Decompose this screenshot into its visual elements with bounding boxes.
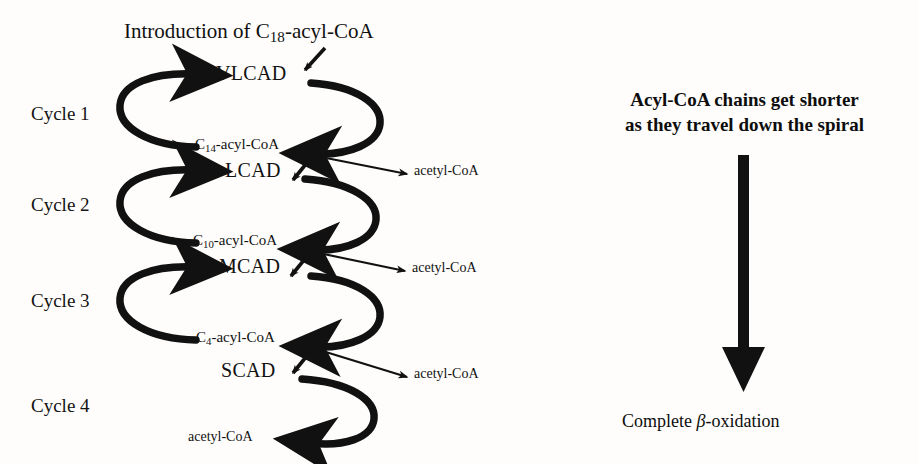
title-subscript: 18 bbox=[270, 29, 285, 45]
acetyl-branch-arrow-1 bbox=[316, 156, 407, 174]
cycle-3-left-curve bbox=[120, 267, 196, 340]
input-arrow-to-vlcad bbox=[305, 48, 325, 70]
title-prefix: Introduction of C bbox=[124, 19, 270, 43]
enzyme-label-scad: SCAD bbox=[221, 360, 276, 381]
c10-suffix: -acyl-CoA bbox=[214, 232, 277, 248]
product-label-acetyl-coa-1: acetyl-CoA bbox=[414, 164, 479, 179]
spiral-annotation-caption: Acyl-CoA chains get shorter as they trav… bbox=[592, 88, 897, 137]
spiral-graphics bbox=[0, 0, 918, 464]
title-suffix: -acyl-CoA bbox=[285, 19, 374, 43]
acetyl-branch-arrow-3 bbox=[316, 349, 407, 377]
cycle-1-right-curve bbox=[311, 83, 380, 154]
acetyl-branch-arrow-2 bbox=[314, 252, 405, 271]
cycle-2-left-curve bbox=[120, 170, 196, 243]
outcome-prefix: Complete bbox=[622, 411, 697, 431]
c14-suffix: -acyl-CoA bbox=[216, 136, 279, 152]
caption-line-1: Acyl-CoA chains get shorter bbox=[592, 88, 897, 113]
c10-prefix: C bbox=[193, 232, 203, 248]
cycle-label-3: Cycle 3 bbox=[31, 291, 90, 311]
product-label-acetyl-coa-final: acetyl-CoA bbox=[188, 430, 253, 445]
cycle-1-left-curve bbox=[120, 74, 196, 147]
cycle-3-right-curve bbox=[311, 276, 380, 347]
descend-arrow-3 bbox=[293, 352, 310, 373]
enzyme-label-mcad: MCAD bbox=[219, 256, 280, 277]
enzyme-label-vlcad: VLCAD bbox=[216, 63, 286, 84]
c14-subscript: 14 bbox=[205, 142, 216, 154]
metabolite-label-c4: C4-acyl-CoA bbox=[196, 330, 275, 347]
product-label-acetyl-coa-3: acetyl-CoA bbox=[414, 367, 479, 382]
cycle-2-right-curve bbox=[305, 179, 376, 250]
cycle-label-2: Cycle 2 bbox=[31, 195, 90, 215]
cycle-label-4: Cycle 4 bbox=[31, 396, 90, 416]
diagram-title: Introduction of C18-acyl-CoA bbox=[124, 20, 374, 46]
metabolite-label-c14: C14-acyl-CoA bbox=[195, 137, 279, 154]
cycle-4-right-curve bbox=[302, 379, 374, 444]
descend-arrow-2 bbox=[291, 255, 308, 276]
beta-oxidation-spiral-diagram: Introduction of C18-acyl-CoA Cycle 1 Cyc… bbox=[0, 0, 918, 464]
cycle-label-1: Cycle 1 bbox=[31, 104, 90, 124]
caption-line-2: as they travel down the spiral bbox=[592, 113, 897, 138]
outcome-label: Complete β-oxidation bbox=[622, 412, 779, 431]
metabolite-label-c10: C10-acyl-CoA bbox=[193, 233, 277, 250]
c14-prefix: C bbox=[195, 136, 205, 152]
product-label-acetyl-coa-2: acetyl-CoA bbox=[412, 261, 477, 276]
c10-subscript: 10 bbox=[203, 238, 214, 250]
downward-progress-arrow bbox=[722, 155, 765, 392]
enzyme-label-lcad: LCAD bbox=[225, 160, 281, 181]
c4-suffix: -acyl-CoA bbox=[211, 329, 274, 345]
outcome-suffix: -oxidation bbox=[705, 411, 779, 431]
c4-prefix: C bbox=[196, 329, 206, 345]
